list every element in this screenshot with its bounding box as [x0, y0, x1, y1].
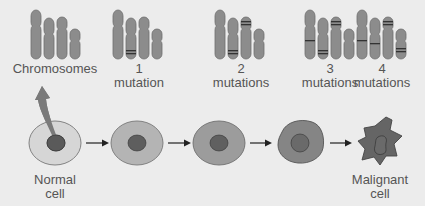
- mutation-progression-diagram: Chromosomes 1 mutation 2 mutations 3 mut…: [0, 0, 425, 206]
- arrow-icon-3: [250, 140, 272, 147]
- normal-cell-label-line2: cell: [17, 187, 93, 201]
- group-2-label: mutations: [200, 76, 282, 90]
- normal-cell-label-line1: Normal: [17, 173, 93, 187]
- group-1-label: mutation: [98, 76, 180, 90]
- chromosome-group-2: [215, 10, 264, 59]
- cell-2-mutations: [193, 121, 245, 165]
- arrow-icon-4: [330, 140, 352, 147]
- malignant-cell-label-line1: Malignant: [340, 173, 420, 187]
- chromosome-group-3: [305, 10, 354, 59]
- arrow-icon-2: [168, 140, 191, 147]
- chromosome-group-4: [357, 10, 406, 59]
- arrow-icon-1: [86, 140, 109, 147]
- group-4-count: 4: [341, 62, 423, 76]
- group-2-count: 2: [200, 62, 282, 76]
- chromosome-group-1: [113, 10, 162, 59]
- chromosomes-label: Chromosomes: [0, 62, 110, 76]
- cell-malignant: [358, 117, 402, 165]
- group-1-count: 1: [98, 62, 180, 76]
- chromosome-group-0: [31, 10, 80, 59]
- cell-1-mutation: [111, 121, 163, 165]
- cell-3-mutations: [278, 120, 324, 163]
- malignant-cell-label-line2: cell: [340, 187, 420, 201]
- group-4-label: mutations: [341, 76, 423, 90]
